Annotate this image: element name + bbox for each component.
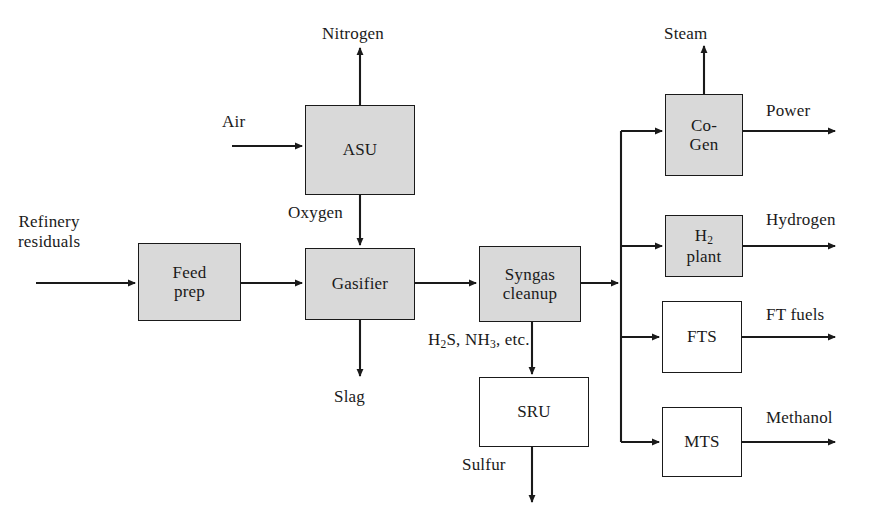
block-label-line1: Feed <box>173 263 207 282</box>
block-label-line2: plant <box>687 247 722 266</box>
block-mts[interactable]: MTS <box>662 407 742 477</box>
block-asu[interactable]: ASU <box>305 105 415 195</box>
stream-label-hydrogen: Hydrogen <box>766 210 836 230</box>
block-fts[interactable]: FTS <box>662 301 742 373</box>
stream-label-oxygen: Oxygen <box>288 203 343 223</box>
stream-label-power: Power <box>766 101 810 121</box>
block-label-line1: H2 <box>695 226 713 245</box>
block-label-line1: Syngas <box>505 265 555 284</box>
block-label: SRU <box>515 402 553 421</box>
block-syngas-cleanup[interactable]: Syngascleanup <box>479 246 581 322</box>
stream-label-nitrogen: Nitrogen <box>322 24 384 44</box>
block-label: Gasifier <box>330 274 390 293</box>
stream-label-slag: Slag <box>334 387 365 407</box>
stream-label-steam: Steam <box>664 24 708 44</box>
block-sru[interactable]: SRU <box>479 377 589 447</box>
block-label-line1: Co- <box>691 116 717 135</box>
process-flow-diagram: Feedprep ASU Gasifier Syngascleanup SRU … <box>0 0 873 518</box>
stream-label-methanol: Methanol <box>766 408 833 428</box>
block-feed-prep[interactable]: Feedprep <box>138 243 241 321</box>
stream-label-air: Air <box>222 112 245 132</box>
stream-label-acid-gases: H2S, NH3, etc. <box>428 330 530 351</box>
block-label-line2: cleanup <box>503 284 557 303</box>
block-label: FTS <box>685 327 719 346</box>
block-label: MTS <box>682 432 722 451</box>
block-h2-plant[interactable]: H2plant <box>665 215 743 277</box>
block-label-line2: prep <box>174 282 205 301</box>
block-label-line2: Gen <box>690 135 719 154</box>
block-gasifier[interactable]: Gasifier <box>305 248 415 320</box>
block-cogen[interactable]: Co-Gen <box>665 94 743 176</box>
stream-label-ft-fuels: FT fuels <box>766 305 824 325</box>
block-label: ASU <box>341 140 380 159</box>
stream-label-sulfur: Sulfur <box>462 455 506 475</box>
stream-label-refinery-residuals: Refineryresiduals <box>18 212 80 251</box>
